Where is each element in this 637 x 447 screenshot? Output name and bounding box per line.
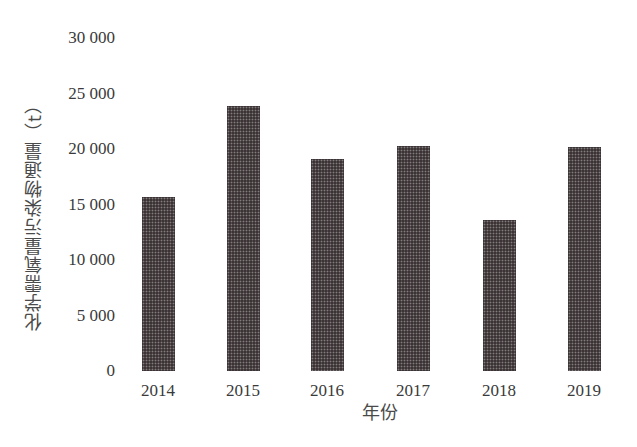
y-tick-label: 5 000 [55,307,115,324]
x-tick-label: 2016 [297,382,357,399]
bar-chart: 化学需氧量污染物通量（t） 05 00010 00015 00020 00025… [0,0,637,447]
y-tick-label: 10 000 [55,251,115,268]
bar-2018 [483,220,516,371]
x-tick-label: 2017 [383,382,443,399]
x-tick-label: 2018 [469,382,529,399]
bar-2019 [568,147,601,371]
bar-2017 [397,146,430,371]
y-tick-label: 0 [55,362,115,379]
bar-2015 [227,106,260,371]
bar-2014 [142,197,175,371]
x-tick-label: 2019 [554,382,614,399]
x-tick-label: 2014 [128,382,188,399]
x-tick-label: 2015 [213,382,273,399]
x-axis-label: 年份 [340,398,420,424]
y-axis-label: 化学需氧量污染物通量（t） [22,80,62,345]
y-tick-label: 20 000 [55,140,115,157]
y-tick-label: 15 000 [55,196,115,213]
y-tick-label: 30 000 [55,29,115,46]
bar-2016 [311,159,344,371]
y-tick-label: 25 000 [55,85,115,102]
